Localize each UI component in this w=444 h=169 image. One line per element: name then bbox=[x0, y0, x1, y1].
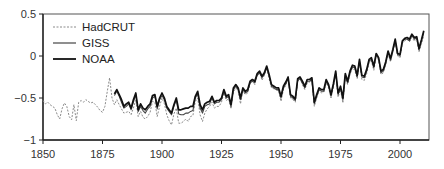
legend: HadCRUT GISS NOAA bbox=[53, 21, 135, 65]
series-line-hadcrut bbox=[43, 36, 424, 125]
x-ticks: 1850187519001925195019752000 bbox=[31, 140, 412, 160]
legend-item-hadcrut: HadCRUT bbox=[53, 21, 135, 33]
legend-item-noaa: NOAA bbox=[53, 53, 115, 65]
y-tick-label: −0.5 bbox=[14, 92, 36, 104]
x-tick-label: 1925 bbox=[209, 148, 233, 160]
y-tick-label: 0.5 bbox=[21, 8, 36, 20]
x-tick-label: 1900 bbox=[150, 148, 174, 160]
legend-label-noaa: NOAA bbox=[82, 53, 115, 65]
legend-label-giss: GISS bbox=[82, 37, 110, 49]
x-tick-label: 2000 bbox=[388, 148, 412, 160]
y-ticks: 0.50−0.5−1 bbox=[14, 8, 43, 146]
y-tick-label: 0 bbox=[30, 50, 36, 62]
series-line-noaa bbox=[114, 31, 423, 113]
x-tick-label: 1850 bbox=[31, 148, 55, 160]
x-tick-label: 1950 bbox=[269, 148, 293, 160]
temperature-anomaly-chart: 0.50−0.5−1 1850187519001925195019752000 … bbox=[0, 0, 444, 169]
x-tick-label: 1975 bbox=[328, 148, 352, 160]
y-tick-label: −1 bbox=[23, 134, 36, 146]
legend-item-giss: GISS bbox=[53, 37, 110, 49]
legend-label-hadcrut: HadCRUT bbox=[82, 21, 135, 33]
x-tick-label: 1875 bbox=[90, 148, 114, 160]
